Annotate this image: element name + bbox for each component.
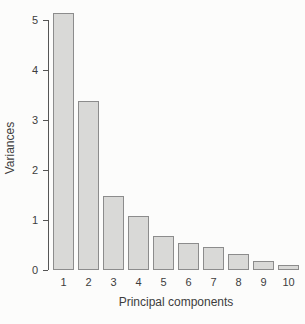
y-tick-mark [43,120,48,121]
y-tick-mark [43,270,48,271]
bar-pc-9 [253,261,274,271]
bar-cell: 3 [101,14,126,270]
bar-cell: 6 [176,14,201,270]
x-tick-label: 9 [251,277,276,288]
bar-series: 12345678910 [51,14,301,270]
bar-cell: 2 [76,14,101,270]
bar-cell: 5 [151,14,176,270]
bar-cell: 10 [276,14,301,270]
y-tick-label: 2 [8,165,38,176]
y-tick-label: 4 [8,65,38,76]
x-tick-label: 7 [201,277,226,288]
x-tick-label: 8 [226,277,251,288]
y-tick-mark [43,20,48,21]
x-axis-title: Principal components [51,295,301,309]
x-tick-label: 6 [176,277,201,288]
bar-pc-1 [53,13,74,270]
bar-cell: 4 [126,14,151,270]
y-tick-label: 0 [8,265,38,276]
bar-pc-5 [153,236,174,271]
x-tick-label: 4 [126,277,151,288]
bar-pc-6 [178,243,199,270]
bar-pc-10 [278,265,299,270]
y-tick-mark [43,170,48,171]
scree-plot: Variances 012345 12345678910 Principal c… [0,0,305,324]
y-tick-mark [43,220,48,221]
y-axis-line [48,20,49,270]
y-tick-label: 5 [8,15,38,26]
x-tick-label: 3 [101,277,126,288]
x-tick-label: 1 [51,277,76,288]
y-tick-label: 1 [8,215,38,226]
bar-cell: 9 [251,14,276,270]
bar-pc-3 [103,196,124,271]
bar-cell: 7 [201,14,226,270]
bar-cell: 1 [51,14,76,270]
bar-pc-2 [78,101,99,271]
bar-cell: 8 [226,14,251,270]
y-tick-label: 3 [8,115,38,126]
y-tick-mark [43,70,48,71]
x-tick-label: 5 [151,277,176,288]
bar-pc-7 [203,247,224,270]
bar-pc-4 [128,216,149,271]
bar-pc-8 [228,254,249,270]
x-tick-label: 10 [276,277,301,288]
x-tick-label: 2 [76,277,101,288]
